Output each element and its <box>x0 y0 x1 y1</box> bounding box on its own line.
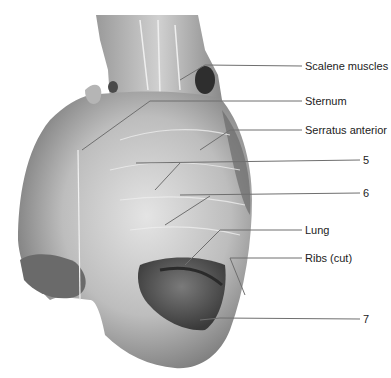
label-sternum: Sternum <box>305 95 347 107</box>
label-ribs-cut: Ribs (cut) <box>305 252 352 264</box>
label-rib-7: 7 <box>363 313 369 325</box>
label-scalene-muscles: Scalene muscles <box>305 60 388 72</box>
label-lung: Lung <box>305 224 329 236</box>
specimen-illustration <box>0 0 391 378</box>
label-rib-6: 6 <box>363 187 369 199</box>
label-serratus-anterior: Serratus anterior <box>305 124 387 136</box>
anatomy-figure: Scalene muscles Sternum Serratus anterio… <box>0 0 391 378</box>
label-rib-5: 5 <box>363 154 369 166</box>
